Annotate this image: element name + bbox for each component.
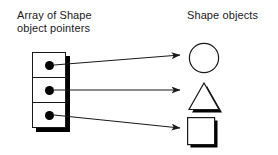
arrow-cell0-to-circle	[54, 55, 180, 65]
array-cell-1	[33, 78, 65, 103]
square-shape	[186, 116, 230, 152]
array-box	[32, 52, 66, 128]
triangle-outline	[189, 83, 219, 110]
pointer-dot-icon	[45, 61, 54, 70]
triangle-shape	[186, 80, 230, 116]
array-cell-2	[33, 103, 65, 127]
arrow-cell2-to-square	[54, 115, 180, 128]
array-label: Array of Shape object pointers	[17, 9, 92, 34]
pointer-dot-icon	[45, 86, 54, 95]
array-cell-0	[33, 53, 65, 78]
pointer-dot-icon	[45, 111, 54, 120]
pointer-array-diagram: Array of Shape object pointers Shape obj…	[0, 0, 278, 155]
circle-outline	[189, 43, 218, 72]
square-outline	[188, 118, 215, 145]
circle-shape	[186, 40, 230, 80]
pointer-array	[32, 52, 66, 128]
shape-objects-label: Shape objects	[187, 9, 258, 22]
